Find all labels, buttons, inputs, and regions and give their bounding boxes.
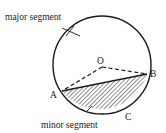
- diagram-svg: major segment minor segment O A B C: [0, 0, 166, 133]
- circle-segment-diagram: major segment minor segment O A B C: [0, 0, 166, 133]
- point-c-label: C: [125, 112, 131, 122]
- center-o-label: O: [97, 56, 104, 66]
- minor-segment-label: minor segment: [41, 120, 98, 130]
- major-segment-label: major segment: [5, 12, 62, 22]
- radius-ob: [102, 67, 147, 74]
- minor-segment-region: [62, 74, 147, 109]
- point-a-label: A: [50, 90, 57, 100]
- point-b-label: B: [150, 69, 156, 79]
